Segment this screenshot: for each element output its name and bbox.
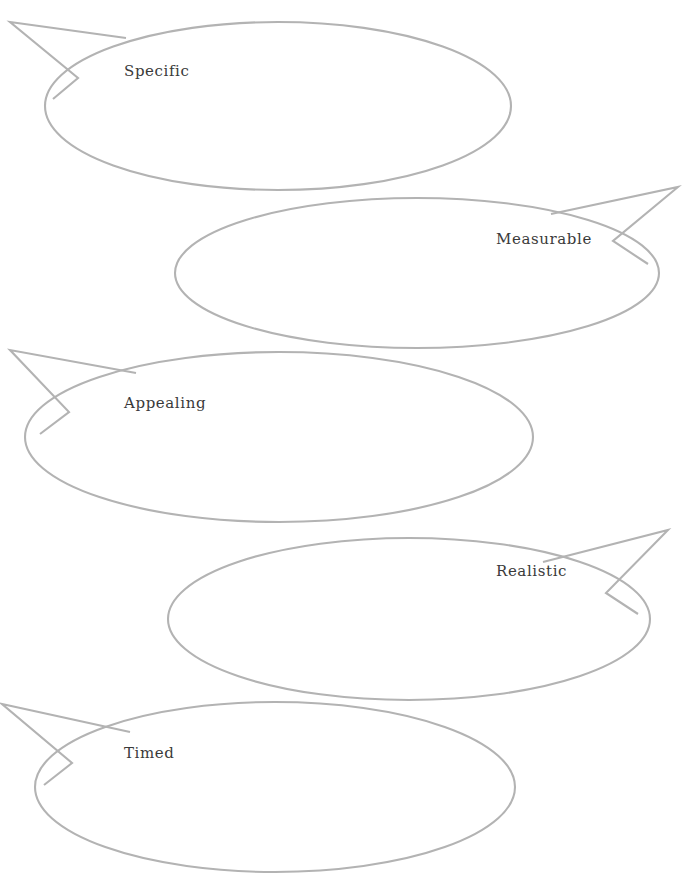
- bubble-shape-realistic: [168, 530, 668, 700]
- bubble-ellipse-realistic: [168, 538, 650, 700]
- bubble-ellipse-measurable: [175, 198, 659, 348]
- bubble-shape-timed: [2, 702, 515, 872]
- bubble-shape-measurable: [175, 187, 678, 348]
- bubble-ellipse-specific: [45, 22, 511, 190]
- diagram-canvas: Specific Measurable Appealing Realistic …: [0, 0, 688, 881]
- bubble-label-timed: Timed: [124, 746, 175, 761]
- bubble-label-appealing: Appealing: [124, 396, 206, 411]
- bubble-shape-specific: [10, 22, 511, 190]
- bubble-ellipse-appealing: [25, 352, 533, 522]
- bubble-label-specific: Specific: [124, 64, 190, 79]
- bubble-tail-specific: [10, 22, 126, 99]
- bubble-label-realistic: Realistic: [496, 564, 567, 579]
- bubble-tail-measurable: [551, 187, 678, 264]
- bubble-shape-appealing: [10, 350, 533, 522]
- speech-bubbles-drawing: [0, 0, 688, 881]
- bubble-label-measurable: Measurable: [496, 232, 592, 247]
